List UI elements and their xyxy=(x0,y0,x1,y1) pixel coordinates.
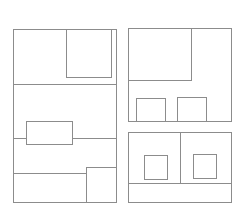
right-bottom-square-2 xyxy=(193,154,217,179)
right-bottom-square-1 xyxy=(144,155,168,180)
right-bottom-panel xyxy=(0,0,245,215)
wireframe-diagram xyxy=(0,0,245,215)
right-bottom-divider-h xyxy=(128,183,232,184)
right-bottom-divider-v xyxy=(180,132,181,183)
